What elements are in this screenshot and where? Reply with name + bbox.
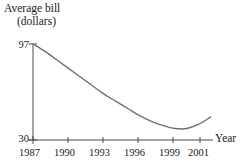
average-bill-line-chart: Average bill (dollars) Year 97 30 1987 1… xyxy=(0,0,241,164)
data-series-curve xyxy=(33,44,211,129)
plot-area xyxy=(0,0,241,164)
